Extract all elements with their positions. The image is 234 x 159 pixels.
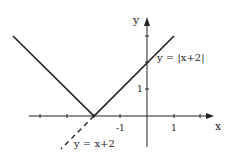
x-tick-label-neg1: -1	[116, 123, 125, 133]
x-tick-label-1: 1	[171, 123, 177, 133]
y-axis-arrow-icon	[144, 17, 150, 26]
y-axis-label: y	[132, 14, 140, 27]
y-tick-label-1: 1	[137, 84, 143, 94]
x-axis-arrow-icon	[206, 113, 214, 119]
abs-curve	[13, 36, 174, 116]
abs-curve-label: y = |x+2|	[156, 52, 205, 64]
linear-extension-label: y = x+2	[73, 138, 115, 149]
graph-canvas: y x -1 1 1 y = |x+2| y = x+2	[0, 0, 234, 159]
x-axis-label: x	[215, 120, 222, 133]
